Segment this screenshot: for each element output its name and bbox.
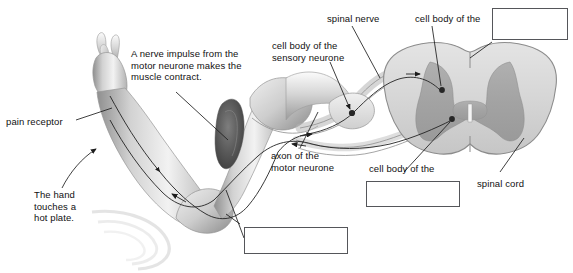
label-spinal-nerve: spinal nerve xyxy=(327,13,379,25)
answer-box-bottom[interactable] xyxy=(244,227,348,254)
label-hand-touches-hot-plate: The hand touches a hot plate. xyxy=(34,189,76,224)
reflex-arc-diagram: pain receptor A nerve impulse from the m… xyxy=(0,0,573,273)
label-nerve-impulse-note: A nerve impulse from the motor neurone m… xyxy=(131,48,242,83)
label-cell-body-sensory-neurone: cell body of the sensory neurone xyxy=(272,40,344,63)
answer-box-top-right[interactable] xyxy=(492,8,568,40)
answer-box-middle[interactable] xyxy=(366,181,460,207)
label-axon-of-motor-neurone: axon of the motor neurone xyxy=(271,150,334,173)
label-cell-body-of-the-lower: cell body of the xyxy=(369,163,435,175)
label-pain-receptor: pain receptor xyxy=(6,116,63,128)
spinal-cord-cross-section xyxy=(384,43,557,155)
label-spinal-cord: spinal cord xyxy=(477,178,524,190)
label-cell-body-of-the-top: cell body of the xyxy=(415,13,481,25)
hot-plate-waves xyxy=(92,211,169,269)
